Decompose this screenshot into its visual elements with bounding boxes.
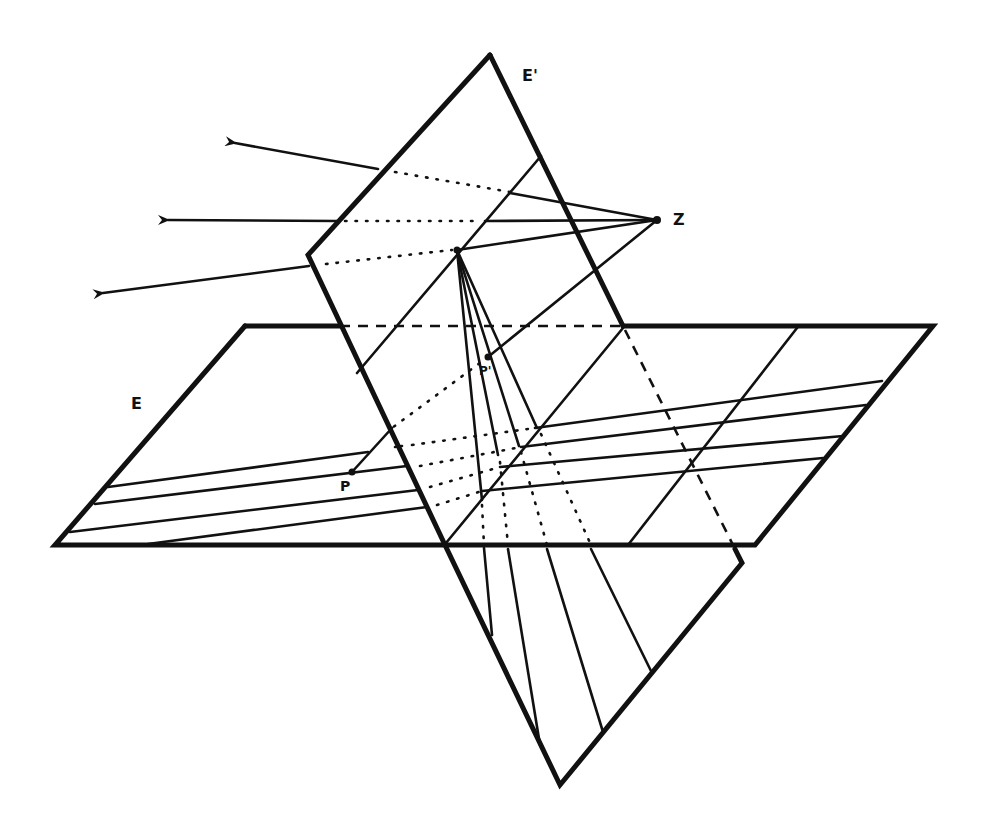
label-point-p: P: [340, 478, 350, 494]
label-plane-e-prime: E': [522, 66, 538, 85]
point-p: [349, 469, 356, 476]
projection-rays: [103, 143, 657, 505]
plane-e-prime: [308, 55, 742, 785]
label-plane-e: E: [131, 394, 142, 413]
vanishing-point: [454, 247, 461, 254]
image-point-p-prime: [485, 354, 492, 361]
center-z-point: [653, 216, 661, 224]
label-center-z: Z: [673, 210, 685, 229]
label-image-point-p-prime: P': [479, 364, 491, 378]
projection-diagram: [0, 0, 988, 839]
